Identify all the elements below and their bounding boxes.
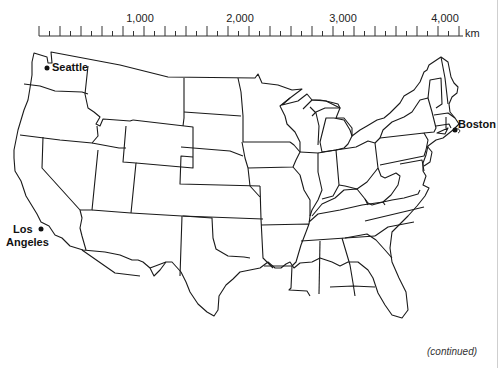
city-label-seattle: Seattle bbox=[52, 61, 88, 73]
boston-dot bbox=[453, 128, 458, 133]
scale-label-2000: 2,000 bbox=[226, 12, 254, 24]
city-label-los-angeles-line1: Los bbox=[13, 223, 33, 235]
scale-label-1000: 1,000 bbox=[126, 12, 154, 24]
state-borders bbox=[20, 57, 455, 296]
los-angeles-dot bbox=[39, 227, 44, 232]
city-label-los-angeles-line2: Angeles bbox=[6, 236, 49, 248]
us-outline-map bbox=[0, 0, 499, 368]
scale-label-3000: 3,000 bbox=[329, 12, 357, 24]
scale-bar bbox=[39, 26, 463, 36]
seattle-dot bbox=[45, 66, 50, 71]
city-label-boston: Boston bbox=[458, 118, 496, 130]
scale-unit: km bbox=[465, 27, 480, 39]
continued-note: (continued) bbox=[427, 346, 477, 357]
scale-label-4000: 4,000 bbox=[431, 12, 459, 24]
